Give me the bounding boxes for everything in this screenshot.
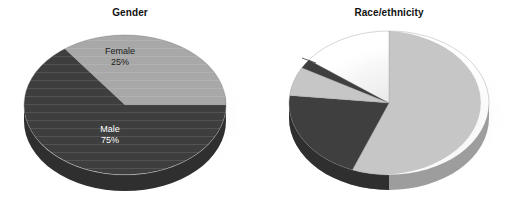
gender-label-female-name: Female (88, 46, 152, 57)
gender-slice-label-male: Male 75% (78, 124, 142, 146)
race-ethnicity-chart-panel: Race/ethnicity (259, 0, 519, 198)
race-ethnicity-pie-graphic (259, 0, 519, 198)
gender-chart-panel: Gender (0, 0, 260, 198)
gender-label-male-percent: 75% (78, 135, 142, 146)
gender-pie-graphic (0, 0, 260, 198)
gender-label-female-percent: 25% (88, 57, 152, 68)
gender-label-male-name: Male (78, 124, 142, 135)
gender-slice-label-female: Female 25% (88, 46, 152, 68)
